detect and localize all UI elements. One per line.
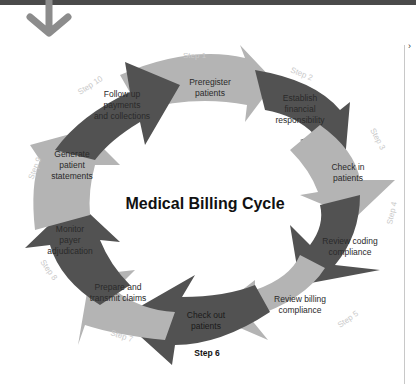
step-7-text: Prepare and transmit claims [90,282,147,303]
svg-text:patient: patient [59,160,85,170]
svg-text:Establish: Establish [283,93,318,103]
svg-text:Preregister: Preregister [189,77,231,87]
panel-divider [404,45,405,384]
step-6-label: Step 6 [194,348,220,358]
svg-text:responsibility: responsibility [275,115,325,125]
svg-text:Review coding: Review coding [322,236,378,246]
step-8-label: Step 8 [38,258,59,283]
medical-billing-cycle-diagram: Step 1 Step 2 Step 3 Step 4 Step 5 Step … [0,0,400,384]
svg-text:financial: financial [284,104,315,114]
step-3-label: Step 3 [368,127,387,152]
svg-text:payer: payer [59,235,80,245]
svg-text:Check out: Check out [187,310,226,320]
svg-text:Monitor: Monitor [56,224,85,234]
step-4-text: Review coding compliance [322,236,378,257]
svg-text:and collections: and collections [94,111,150,121]
step-10-label: Step 10 [76,74,104,97]
svg-text:Prepare and: Prepare and [95,282,142,292]
step-6-text: Check out patients [187,310,226,331]
step-1-text: Preregister patients [189,77,231,98]
svg-text:Generate: Generate [54,149,90,159]
svg-text:Follow up: Follow up [104,89,141,99]
step-5-text: Review billing compliance [274,294,326,315]
svg-text:patients: patients [333,173,363,183]
svg-text:patients: patients [191,321,221,331]
step-1-label: Step 1 [183,51,207,60]
svg-text:adjudication: adjudication [47,246,93,256]
svg-text:compliance: compliance [329,247,372,257]
svg-text:patients: patients [195,88,225,98]
svg-text:transmit claims: transmit claims [90,293,147,303]
svg-text:payments: payments [104,100,141,110]
svg-text:statements: statements [51,171,93,181]
svg-text:Review billing: Review billing [274,294,326,304]
collapse-chevron-icon[interactable]: › [408,42,411,51]
svg-text:Check in: Check in [331,162,364,172]
diagram-title: Medical Billing Cycle [125,195,284,212]
step-4-label: Step 4 [385,200,399,225]
svg-text:compliance: compliance [279,305,322,315]
step-3-text: Check in patients [331,162,364,183]
step-5-label: Step 5 [336,309,361,330]
